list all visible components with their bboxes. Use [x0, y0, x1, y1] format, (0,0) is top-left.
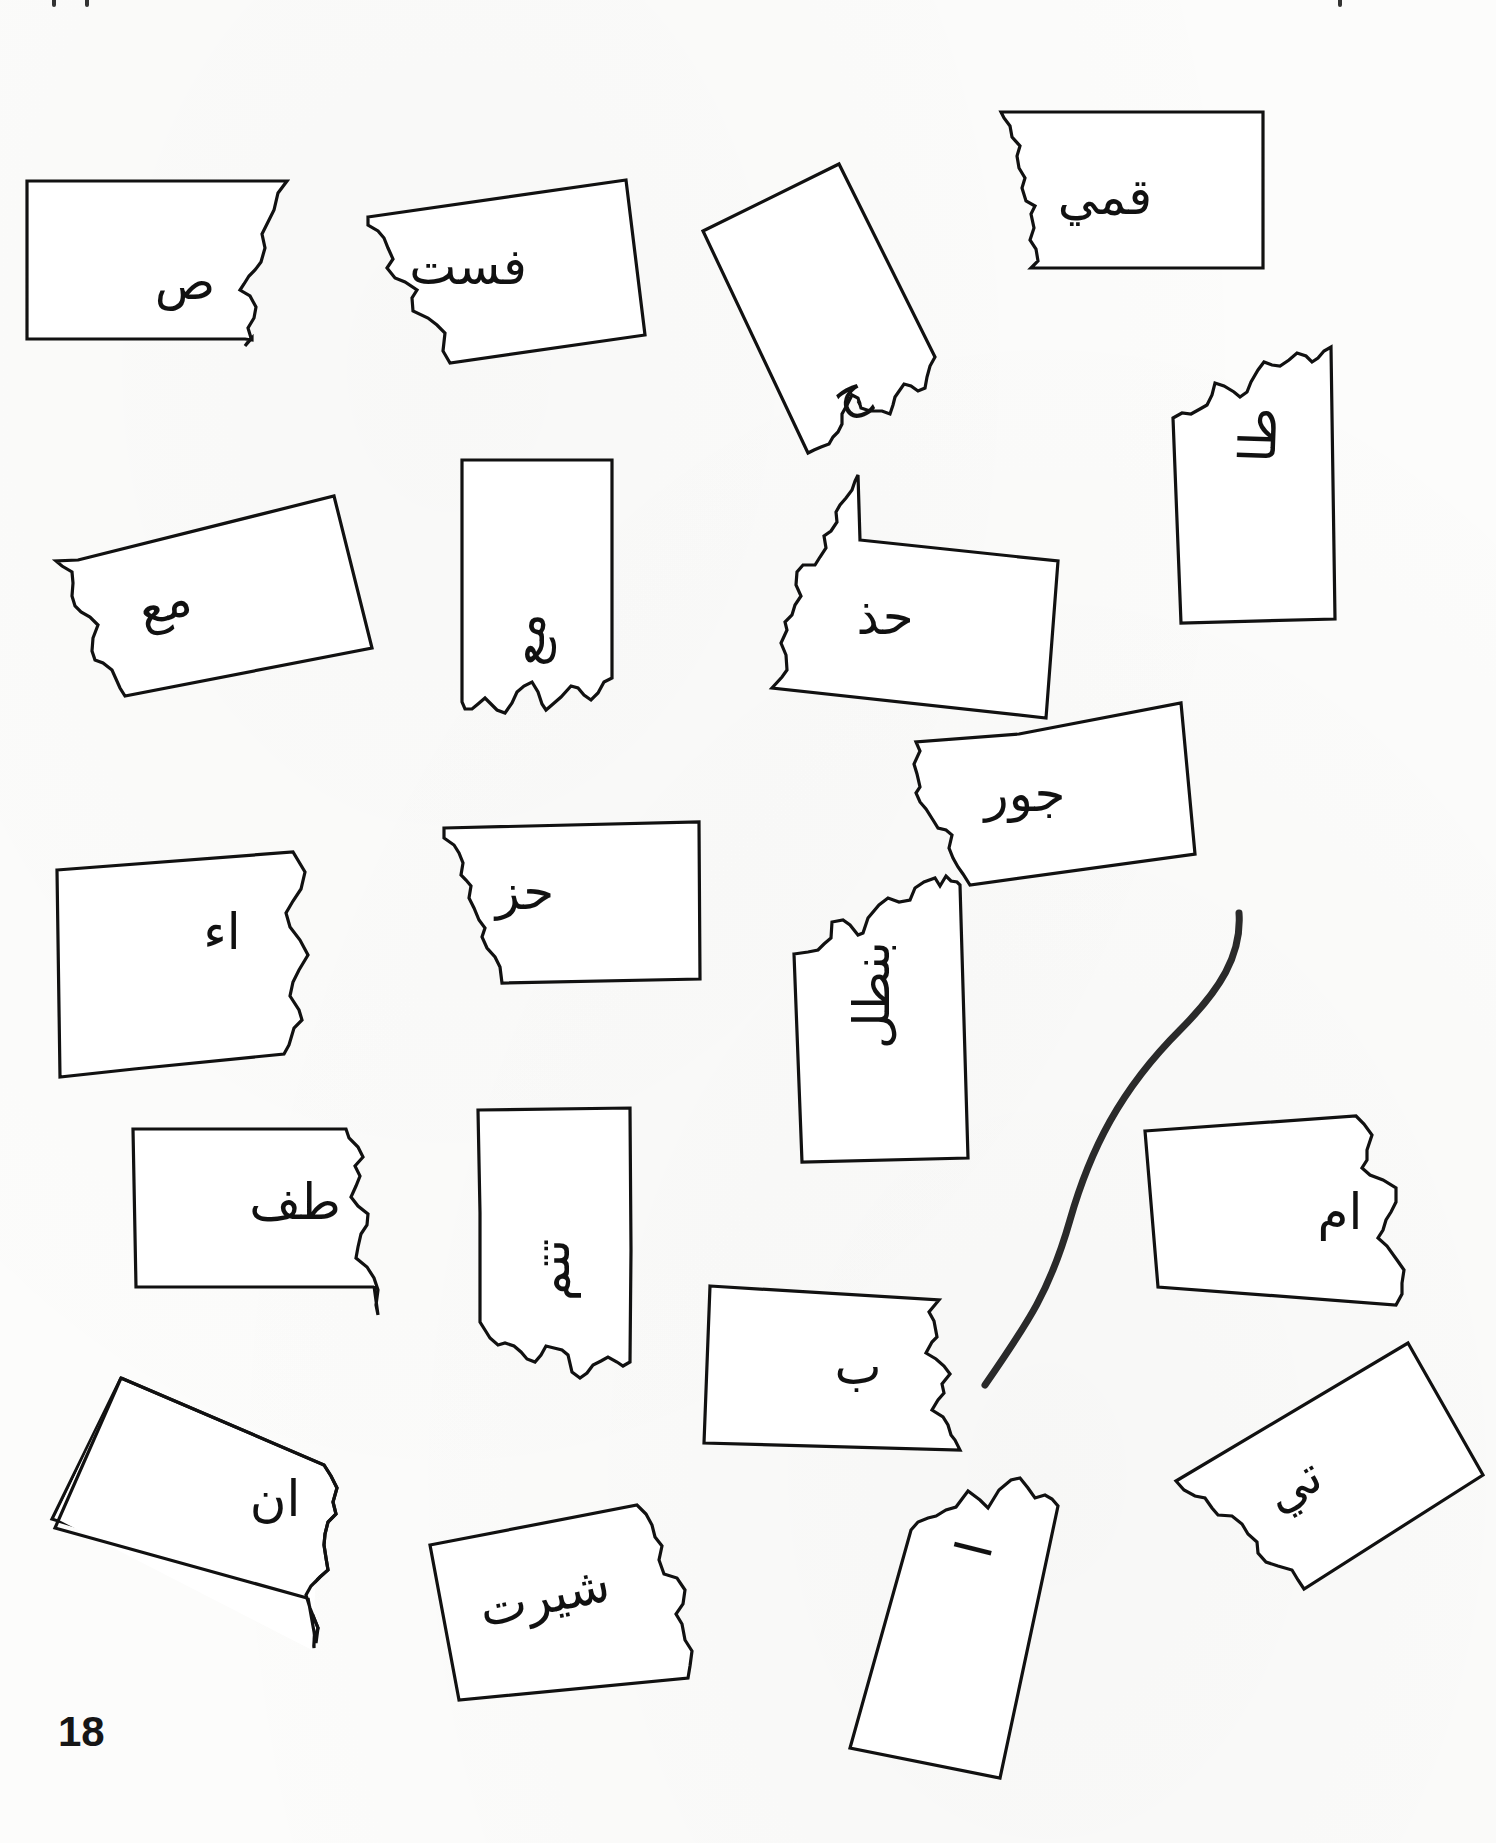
piece-text: اء [203, 903, 240, 961]
puzzle-piece[interactable]: بنطل [794, 876, 968, 1162]
puzzle-piece[interactable]: شيرت [430, 1505, 692, 1700]
piece-text: بنطل [843, 941, 901, 1049]
puzzle-piece[interactable]: فست [368, 180, 645, 363]
puzzle-piece[interactable]: طف [133, 1129, 378, 1315]
page-number: 18 [58, 1708, 105, 1756]
piece-text: فست [409, 238, 527, 296]
worksheet-page: ص فست ج قمي طا مع مع [0, 0, 1496, 1843]
piece-text: ص [155, 253, 215, 311]
piece-text: تتم [523, 1239, 581, 1301]
puzzle-piece[interactable]: ص [27, 181, 287, 346]
puzzle-piece[interactable]: تتم [478, 1108, 631, 1378]
puzzle-piece[interactable]: حذ [772, 475, 1058, 718]
puzzle-piece[interactable]: اء [57, 852, 308, 1077]
puzzle-piece[interactable]: ان [52, 1378, 337, 1650]
piece-text: مع [498, 613, 557, 666]
puzzle-piece[interactable]: تي [1176, 1343, 1483, 1589]
puzzle-piece[interactable]: مع [56, 496, 372, 696]
piece-text: ان [250, 1470, 301, 1528]
puzzle-piece[interactable]: جور [914, 703, 1195, 885]
puzzle-piece[interactable]: ام [1145, 1116, 1404, 1305]
piece-text: حز [493, 863, 555, 921]
piece-text: طا [1229, 406, 1289, 463]
puzzle-piece[interactable]: مع [462, 460, 612, 713]
puzzle-piece[interactable]: قمي [1001, 112, 1263, 268]
puzzle-piece[interactable]: حز [444, 822, 700, 983]
puzzle-piece[interactable]: ج [703, 164, 935, 453]
puzzle-sheet: ص فست ج قمي طا مع مع [0, 0, 1496, 1843]
piece-text: ب [834, 1338, 881, 1396]
piece-text: قمي [1058, 168, 1152, 226]
puzzle-piece[interactable]: طا [1173, 347, 1335, 623]
piece-text: جور [982, 765, 1066, 823]
puzzle-piece[interactable]: ا [850, 1478, 1058, 1778]
piece-text: ام [1318, 1183, 1363, 1241]
puzzle-piece[interactable]: ب [704, 1286, 960, 1450]
piece-text: حذ [856, 588, 913, 646]
piece-text: طف [249, 1173, 341, 1231]
